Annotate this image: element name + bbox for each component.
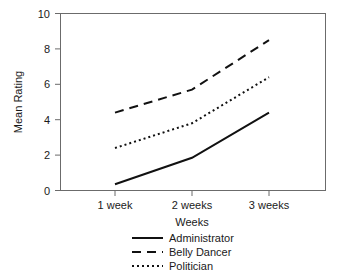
line-chart: 0 2 4 6 8 10 Mean Rating 1 week 2 weeks …: [0, 0, 344, 277]
x-axis-ticks: [115, 191, 269, 197]
x-tick-label-2: 2 weeks: [172, 199, 213, 211]
y-axis-title: Mean Rating: [12, 71, 24, 133]
y-tick-label-8: 8: [44, 43, 50, 55]
x-axis-title: Weeks: [175, 216, 209, 228]
chart-figure: 0 2 4 6 8 10 Mean Rating 1 week 2 weeks …: [0, 0, 344, 277]
y-tick-label-2: 2: [44, 149, 50, 161]
x-tick-label-3: 3 weeks: [249, 199, 290, 211]
x-tick-label-1: 1 week: [98, 199, 133, 211]
legend: Administrator Belly Dancer Politician: [132, 232, 234, 272]
legend-label-belly-dancer: Belly Dancer: [169, 246, 232, 258]
legend-label-politician: Politician: [169, 260, 213, 272]
legend-label-administrator: Administrator: [169, 232, 234, 244]
plot-frame: [61, 14, 326, 191]
y-tick-label-4: 4: [44, 114, 50, 126]
y-tick-label-6: 6: [44, 78, 50, 90]
y-axis-ticks: [55, 14, 61, 191]
y-tick-label-0: 0: [44, 185, 50, 197]
y-tick-label-10: 10: [38, 8, 50, 20]
